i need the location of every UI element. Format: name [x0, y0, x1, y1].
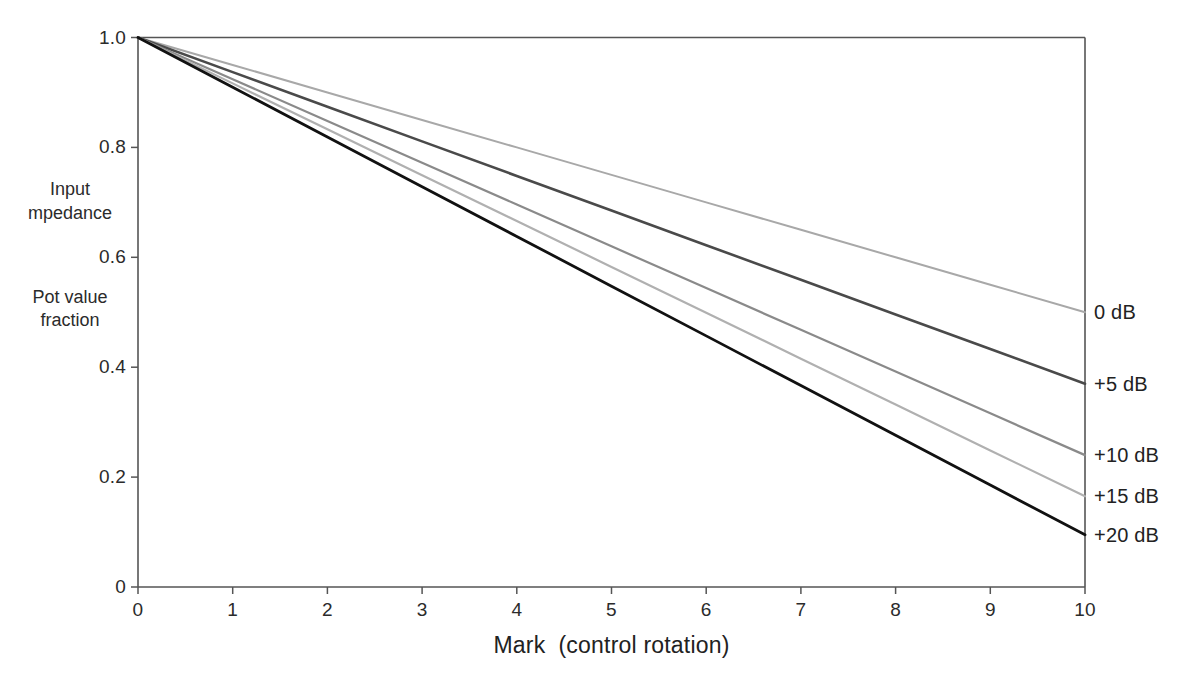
x-axis-title: Mark (control rotation): [493, 632, 729, 659]
data-series-lines: [138, 38, 1085, 535]
series-label-0-db: 0 dB: [1094, 301, 1136, 324]
y-axis-caption-pot-value-line2: fraction: [32, 310, 107, 334]
plot-frame: [138, 38, 1085, 588]
chart-figure: 00.20.40.60.81.0 012345678910 0 dB+5 dB+…: [0, 0, 1203, 678]
series-label-20-db: +20 dB: [1094, 523, 1159, 546]
y-axis-caption-impedance-line1: Input: [28, 179, 112, 203]
y-tick-label-3: 0.6: [0, 246, 126, 268]
x-tick-label-10: 10: [1074, 599, 1096, 621]
y-axis-caption-impedance-line2: mpedance: [28, 202, 112, 226]
series-label-10-db: +10 dB: [1094, 444, 1159, 467]
series-line-15-db: [138, 38, 1085, 497]
series-label-15-db: +15 dB: [1094, 485, 1159, 508]
series-line-10-db: [138, 38, 1085, 456]
x-tick-label-6: 6: [701, 599, 712, 621]
series-line-5-db: [138, 38, 1085, 384]
y-tick-label-4: 0.8: [0, 136, 126, 158]
y-axis-caption-pot-value: Pot value fraction: [32, 286, 107, 334]
x-tick-label-8: 8: [890, 599, 901, 621]
x-tick-label-4: 4: [511, 599, 522, 621]
plot-area: [0, 0, 1203, 678]
x-tick-label-0: 0: [133, 599, 144, 621]
series-label-5-db: +5 dB: [1094, 372, 1148, 395]
x-tick-label-9: 9: [985, 599, 996, 621]
y-axis-caption-pot-value-line1: Pot value: [32, 286, 107, 310]
x-tick-label-5: 5: [606, 599, 617, 621]
y-tick-label-0: 0: [0, 576, 126, 598]
series-line-20-db: [138, 38, 1085, 535]
y-tick-label-5: 1.0: [0, 27, 126, 49]
x-tick-label-7: 7: [796, 599, 807, 621]
y-tick-label-1: 0.2: [0, 466, 126, 488]
axis-ticks: [131, 38, 1085, 595]
y-tick-label-2: 0.4: [0, 356, 126, 378]
x-tick-label-3: 3: [417, 599, 428, 621]
x-tick-label-2: 2: [322, 599, 333, 621]
x-tick-label-1: 1: [227, 599, 238, 621]
series-line-0-db: [138, 38, 1085, 313]
y-axis-caption-impedance: Input mpedance: [28, 179, 112, 227]
